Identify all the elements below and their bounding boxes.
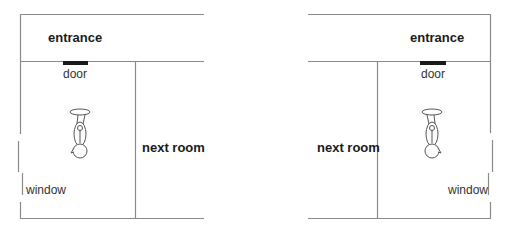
right-next-room-label: next room bbox=[317, 141, 380, 154]
person-topdown-icon bbox=[70, 109, 90, 158]
left-door-label: door bbox=[63, 68, 87, 80]
left-window-label: window bbox=[26, 184, 66, 196]
right-window-label: window bbox=[448, 184, 488, 196]
right-door bbox=[420, 61, 446, 65]
left-entrance-label: entrance bbox=[48, 31, 102, 44]
person-topdown-icon bbox=[422, 109, 442, 158]
left-next-room-label: next room bbox=[142, 141, 205, 154]
right-door-label: door bbox=[421, 68, 445, 80]
left-door bbox=[63, 61, 88, 65]
right-entrance-label: entrance bbox=[410, 31, 464, 44]
